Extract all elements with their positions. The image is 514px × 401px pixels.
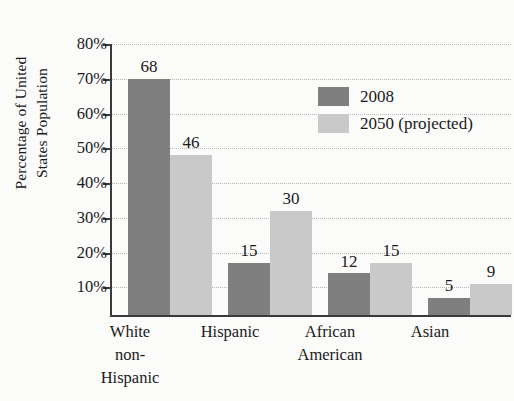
legend-label-2008: 2008 <box>360 88 394 105</box>
legend-swatch-2008 <box>318 87 349 106</box>
bar-group-white-non-hispanic: 68 46 <box>128 44 212 315</box>
bar-group-hispanic: 15 30 <box>228 44 312 315</box>
bar-value-2008-hispanic: 15 <box>226 242 272 259</box>
ytick-label-20: 20% <box>37 245 107 262</box>
bar-2050-white-non-hispanic[interactable] <box>170 155 212 315</box>
legend-label-2050: 2050 (projected) <box>360 115 473 132</box>
xcat-label-asian: Asian <box>370 320 490 343</box>
bar-2050-asian[interactable] <box>470 284 512 315</box>
ytick-label-80: 80% <box>37 36 107 53</box>
ytick-label-10: 10% <box>37 279 107 296</box>
bar-2050-african-american[interactable] <box>370 263 412 315</box>
bar-2008-hispanic[interactable] <box>228 263 270 315</box>
ytick-label-30: 30% <box>37 210 107 227</box>
legend-item-2008[interactable]: 2008 <box>318 83 473 110</box>
bar-value-2050-asian: 9 <box>468 263 514 280</box>
legend-item-2050[interactable]: 2050 (projected) <box>318 110 473 137</box>
legend-swatch-2050 <box>318 114 349 133</box>
bar-value-2008-white-non-hispanic: 68 <box>126 58 172 75</box>
x-axis-line <box>110 315 511 317</box>
bar-value-2008-asian: 5 <box>426 277 472 294</box>
legend: 2008 2050 (projected) <box>318 83 473 137</box>
bar-2050-hispanic[interactable] <box>270 211 312 315</box>
ytick-label-50: 50% <box>37 140 107 157</box>
bar-value-2050-hispanic: 30 <box>268 190 314 207</box>
xcat-african-line-2: American <box>270 343 390 366</box>
bar-value-2050-white-non-hispanic: 46 <box>168 134 214 151</box>
y-axis-title-line-1: Percentage of United <box>10 28 31 218</box>
bar-value-2008-african-american: 12 <box>326 253 372 270</box>
ytick-label-70: 70% <box>37 71 107 88</box>
ytick-label-40: 40% <box>37 175 107 192</box>
xcat-white-line-2: non- <box>70 343 190 366</box>
bar-2008-asian[interactable] <box>428 298 470 315</box>
bar-value-2050-african-american: 15 <box>368 242 414 259</box>
xcat-white-line-3: Hispanic <box>70 366 190 389</box>
bar-2008-white-non-hispanic[interactable] <box>128 79 170 315</box>
ytick-label-60: 60% <box>37 106 107 123</box>
xcat-asian-line-1: Asian <box>370 320 490 343</box>
bar-2008-african-american[interactable] <box>328 273 370 315</box>
